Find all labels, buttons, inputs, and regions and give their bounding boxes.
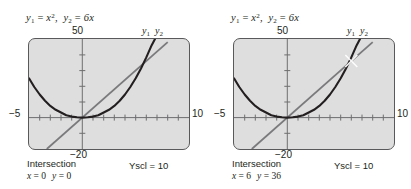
readout-x-label: x [232, 171, 236, 181]
readout-values: x = 6y = 36 [232, 170, 281, 182]
graph-plot-left [29, 39, 189, 149]
calculator-panel-right: y1 = x2, y2 = 6x 50 −20 −5 10 y1y2 [205, 0, 410, 189]
readout-left: Intersection x = 0y = 0 [27, 158, 76, 182]
graph-plot-right [234, 39, 394, 149]
readout-title: Intersection [232, 158, 281, 170]
equation-comma: , [260, 12, 263, 23]
axis-label-left: −5 [214, 108, 225, 119]
equation-caption-left: y1 = x2, y2 = 6x [26, 12, 94, 25]
axis-label-right: 10 [397, 108, 408, 119]
readout-y-value: 36 [271, 171, 281, 181]
equation-equals-2: = [280, 12, 286, 23]
curve-label-y2-subscript: 2 [159, 30, 163, 38]
readout-y-label: y [52, 171, 56, 181]
equation-equals-1: = [37, 12, 43, 23]
readout-x-equals: = [239, 171, 244, 181]
equation-y1-subscript: 1 [31, 17, 35, 25]
readout-x-equals: = [34, 171, 39, 181]
equation-equals-2: = [75, 12, 81, 23]
curve-label-y1-subscript: 1 [146, 30, 150, 38]
curve-legend-labels: y1y2 [142, 25, 163, 38]
equation-equals-1: = [242, 12, 248, 23]
readout-y-label: y [257, 171, 261, 181]
graph-screen-left [28, 38, 190, 150]
equation-y2-expression: 6x [84, 12, 94, 23]
equation-y2-subscript: 2 [273, 17, 277, 25]
readout-x-value: 6 [246, 171, 251, 181]
readout-title: Intersection [27, 158, 76, 170]
curve-label-y2-subscript: 2 [364, 30, 368, 38]
line-y2 [47, 42, 168, 149]
equation-y2-expression: 6x [289, 12, 299, 23]
equation-y2-subscript: 2 [68, 17, 72, 25]
axis-label-right: 10 [192, 108, 203, 119]
curve-label-y1-subscript: 1 [351, 30, 355, 38]
readout-x-label: x [27, 171, 31, 181]
readout-y-equals: = [59, 171, 64, 181]
equation-comma: , [55, 12, 58, 23]
yscl-label: Yscl = 10 [334, 160, 373, 171]
readout-y-equals: = [264, 171, 269, 181]
readout-right: Intersection x = 6y = 36 [232, 158, 281, 182]
axis-label-top: 50 [72, 25, 83, 36]
readout-x-value: 0 [41, 171, 46, 181]
axis-label-left: −5 [9, 108, 20, 119]
graph-screen-right [233, 38, 395, 150]
equation-y1-subscript: 1 [236, 17, 240, 25]
yscl-label: Yscl = 10 [129, 160, 168, 171]
two-calculator-screens-figure: y1 = x2, y2 = 6x 50 −20 −5 10 y1y2 [0, 0, 411, 189]
calculator-panel-left: y1 = x2, y2 = 6x 50 −20 −5 10 y1y2 [0, 0, 205, 189]
readout-y-value: 0 [66, 171, 71, 181]
curve-legend-labels: y1y2 [347, 25, 368, 38]
readout-values: x = 0y = 0 [27, 170, 76, 182]
curve-y1 [234, 39, 360, 118]
curve-y1 [29, 39, 155, 118]
equation-caption-right: y1 = x2, y2 = 6x [231, 12, 299, 25]
axis-label-top: 50 [277, 25, 288, 36]
